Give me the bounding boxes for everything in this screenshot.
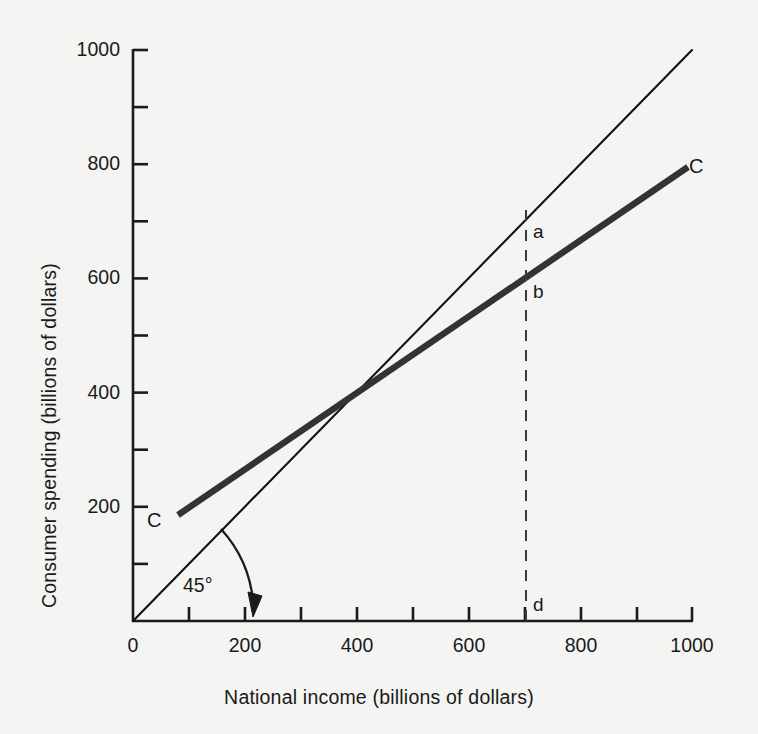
x-axis-title: National income (billions of dollars) <box>0 686 758 709</box>
angle-arc-45 <box>221 529 253 601</box>
x-tick-label-600: 600 <box>434 634 504 657</box>
curve-label-c-right: C <box>689 155 703 178</box>
angle-arc-arrowhead <box>248 592 262 617</box>
y-axis-ticks <box>133 50 148 564</box>
x-tick-label-1000: 1000 <box>657 634 727 657</box>
y-tick-label-1000: 1000 <box>40 38 120 61</box>
x-tick-label-400: 400 <box>322 634 392 657</box>
x-tick-label-200: 200 <box>210 634 280 657</box>
curve-label-c-left: C <box>147 509 161 532</box>
x-tick-label-800: 800 <box>546 634 616 657</box>
series-45-degree-line <box>133 50 692 621</box>
chart-canvas <box>0 0 758 734</box>
angle-label-45: 45° <box>183 574 213 597</box>
point-label-d: d <box>533 594 544 616</box>
x-axis-ticks <box>189 607 692 621</box>
y-axis-title: Consumer spending (billions of dollars) <box>38 263 61 608</box>
y-tick-label-800: 800 <box>40 152 120 175</box>
point-label-a: a <box>533 221 544 243</box>
x-tick-label-0: 0 <box>98 634 168 657</box>
chart-figure: 1000 800 600 400 200 0 200 400 600 800 1… <box>0 0 758 734</box>
series-consumption-function <box>178 167 688 515</box>
point-label-b: b <box>533 281 544 303</box>
